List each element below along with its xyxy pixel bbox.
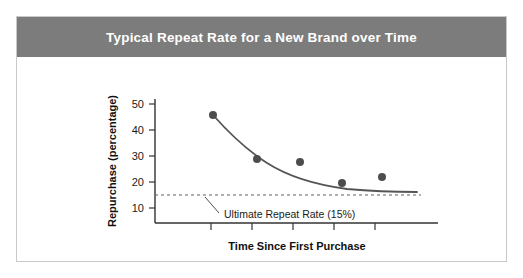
y-tick-label-50: 50	[132, 98, 144, 110]
y-tick-label-10: 10	[132, 202, 144, 214]
data-point-2	[253, 155, 261, 163]
y-tick-label-40: 40	[132, 124, 144, 136]
data-point-1	[209, 111, 217, 119]
page-title: Typical Repeat Rate for a New Brand over…	[106, 30, 417, 45]
x-axis-title: Time Since First Purchase	[228, 240, 365, 252]
y-axis-title: Repurchase (percentage)	[106, 95, 118, 227]
y-tick-label-20: 20	[132, 176, 144, 188]
data-point-5	[378, 173, 386, 181]
data-point-3	[296, 158, 304, 166]
chart-figure-panel: Typical Repeat Rate for a New Brand over…	[16, 16, 507, 262]
chart-title-band: Typical Repeat Rate for a New Brand over…	[17, 17, 506, 57]
repeat-rate-chart: 50 40 30 20 10 Repurchase (percentage) T…	[17, 57, 508, 262]
reference-line-annotation: Ultimate Repeat Rate (15%)	[224, 208, 355, 220]
fitted-curve	[213, 115, 417, 192]
plot-area: 50 40 30 20 10 Repurchase (percentage) T…	[17, 57, 506, 262]
data-point-4	[338, 179, 346, 187]
y-tick-label-30: 30	[132, 150, 144, 162]
annotation-leader-line	[205, 197, 219, 213]
